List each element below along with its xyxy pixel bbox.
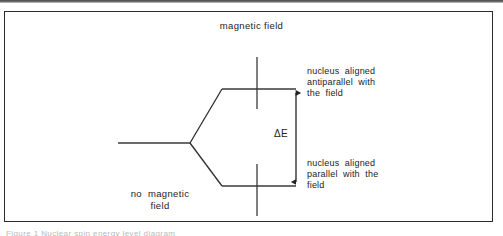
lower-state-label-line1: nucleus aligned bbox=[307, 158, 375, 168]
energy-level-diagram bbox=[0, 0, 503, 236]
lower-state-label-line3: field bbox=[307, 180, 325, 190]
energy-gap-label: ΔE bbox=[274, 128, 288, 139]
lower-state-label: nucleus aligned parallel with the field bbox=[307, 158, 437, 191]
cropped-caption-sliver: Figure 1 Nuclear spin energy level diagr… bbox=[6, 230, 426, 236]
upper-state-label-line3: the field bbox=[307, 88, 343, 98]
lower-state-label-line2: parallel with the bbox=[307, 169, 378, 179]
ground-state-label-line1: no magnetic bbox=[131, 188, 190, 199]
upper-state-label: nucleus aligned antiparallel with the fi… bbox=[307, 66, 437, 99]
ground-state-label-line2: field bbox=[150, 200, 169, 211]
diagram-title: magnetic field bbox=[0, 20, 503, 31]
split-branch-upper-line bbox=[190, 89, 222, 143]
upper-state-label-line1: nucleus aligned bbox=[307, 66, 375, 76]
split-branch-lower-line bbox=[190, 143, 222, 186]
upper-state-label-line2: antiparallel with bbox=[307, 77, 375, 87]
ground-state-label: no magnetic field bbox=[104, 188, 216, 211]
